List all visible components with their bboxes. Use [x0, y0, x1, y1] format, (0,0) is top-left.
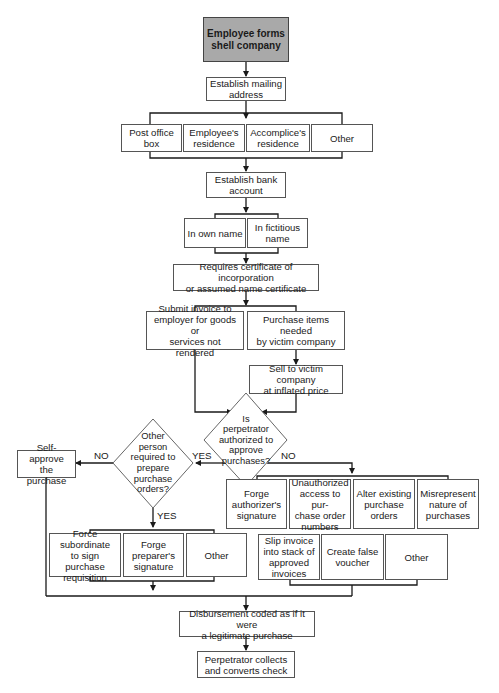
option-accomplices-residence: Accomplice's residence [246, 124, 310, 152]
flowchart-canvas: Employee forms shell company Establish m… [0, 0, 499, 693]
option-forge-preparer-signature: Forge preparer's signature [123, 533, 184, 577]
edge-label-other-no: NO [94, 450, 109, 461]
decision-other-person-label: Other person required to prepare purchas… [123, 423, 183, 503]
option-forge-authorizer-signature: Forge authorizer's signature [226, 479, 287, 529]
option-alter-existing-po: Alter existing purchase orders [353, 479, 415, 529]
decision-authorized-label: Is perpetrator authorized to approve pur… [214, 400, 278, 480]
option-unauthorized-access-po: Unauthorized access to pur- chase order … [289, 479, 351, 529]
step-sell-inflated: Sell to victim company at inflated price [249, 365, 343, 394]
option-fictitious-name: In fictitious name [247, 218, 308, 248]
edge-label-auth-no: NO [281, 450, 296, 461]
edge-label-auth-yes: YES [192, 450, 212, 461]
step-submit-invoice: Submit invoice to employer for goods or … [146, 311, 244, 350]
option-slip-invoice: Slip invoice into stack of approved invo… [258, 534, 320, 580]
option-other-no: Other [385, 534, 448, 580]
step-requires-certificate: Requires certificate of incorporation or… [173, 264, 319, 291]
option-create-false-voucher: Create false voucher [321, 534, 384, 580]
option-employees-residence: Employee's residence [183, 124, 245, 152]
step-self-approve: Self-approve the purchase [17, 450, 76, 478]
edge-label-other-yes: YES [157, 510, 177, 521]
step-establish-mailing: Establish mailing address [206, 77, 286, 101]
option-misrepresent-nature: Misrepresent nature of purchases [417, 479, 479, 529]
step-establish-bank-account: Establish bank account [206, 172, 286, 198]
option-own-name: In own name [184, 218, 246, 248]
option-post-office-box: Post office box [121, 124, 182, 152]
step-purchase-items: Purchase items needed by victim company [247, 311, 345, 350]
step-perpetrator-collects: Perpetrator collects and converts check [197, 651, 295, 678]
option-other-yes: Other [186, 533, 247, 577]
start-node: Employee forms shell company [203, 17, 289, 62]
option-other-address: Other [311, 124, 373, 152]
option-force-subordinate: Force subordinate to sign purchase requi… [49, 533, 121, 577]
step-disbursement-coded: Disbursement coded as if it were a legit… [179, 611, 315, 637]
